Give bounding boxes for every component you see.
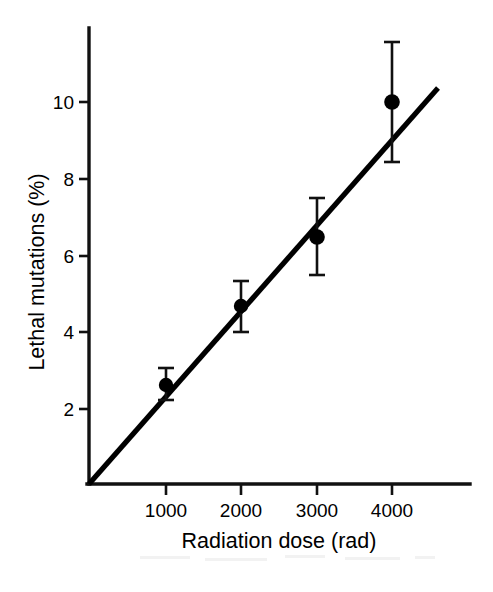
y-axis-tick-labels: 10 8 6 4 2 xyxy=(53,92,75,420)
lethal-mutations-scatter-plot: 10 8 6 4 2 1000 2000 3000 4000 Radiation… xyxy=(0,0,493,592)
x-tick-label-3000: 3000 xyxy=(296,500,338,521)
y-tick-label-2: 2 xyxy=(63,399,74,420)
x-tick-label-2000: 2000 xyxy=(220,500,262,521)
x-tick-label-1000: 1000 xyxy=(145,500,187,521)
data-marker-2000 xyxy=(234,299,248,313)
scan-noise xyxy=(140,555,435,561)
x-axis-title: Radiation dose (rad) xyxy=(182,529,377,553)
y-tick-label-4: 4 xyxy=(63,322,74,343)
linear-fit-line xyxy=(89,88,438,484)
data-marker-3000 xyxy=(309,229,325,245)
y-tick-label-8: 8 xyxy=(63,169,74,190)
chart-figure: 10 8 6 4 2 1000 2000 3000 4000 Radiation… xyxy=(0,0,493,592)
data-marker-4000 xyxy=(384,94,400,110)
data-point-3000 xyxy=(309,198,325,275)
x-axis-tick-labels: 1000 2000 3000 4000 xyxy=(145,500,413,521)
y-tick-label-6: 6 xyxy=(63,246,74,267)
data-marker-1000 xyxy=(159,378,173,392)
y-axis-title: Lethal mutations (%) xyxy=(25,173,49,370)
data-point-1000 xyxy=(158,368,174,400)
x-tick-label-4000: 4000 xyxy=(371,500,413,521)
data-point-2000 xyxy=(233,281,249,332)
y-tick-label-10: 10 xyxy=(53,92,74,113)
